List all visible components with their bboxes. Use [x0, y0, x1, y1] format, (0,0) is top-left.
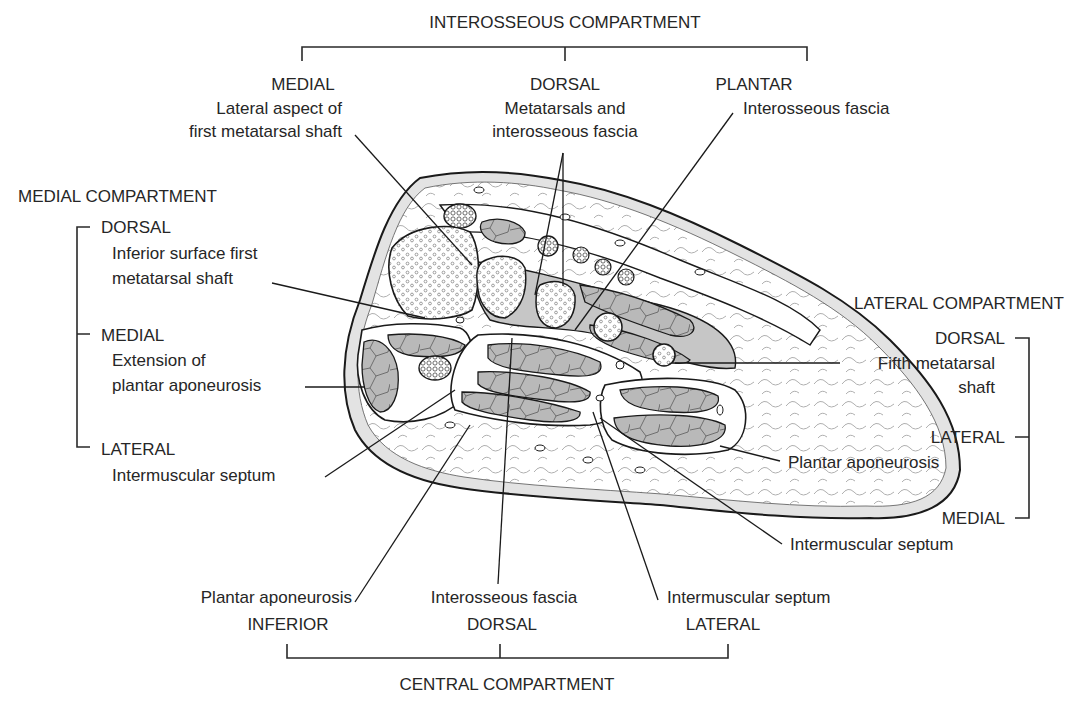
medial-dorsal-title: DORSAL [101, 218, 171, 237]
interosseous-dorsal-desc1: Metatarsals and [505, 99, 626, 118]
first-metatarsal [389, 227, 479, 319]
nerve-bundle [444, 204, 476, 228]
interosseous-plantar-title: PLANTAR [715, 75, 792, 94]
interosseous-dorsal-desc2: interosseous fascia [492, 122, 638, 141]
medial-compartment-bracket [77, 227, 90, 447]
lateral-lateral-desc1: Plantar aponeurosis [788, 453, 939, 472]
medial-medial-desc2: plantar aponeurosis [112, 376, 261, 395]
foot-compartment-diagram: INTEROSSEOUS COMPARTMENT MEDIAL Lateral … [0, 0, 1078, 711]
interosseous-medial-desc1: Lateral aspect of [216, 99, 342, 118]
interosseous-bracket [302, 47, 807, 61]
medial-lateral-desc1: Intermuscular septum [112, 466, 275, 485]
central-dorsal-desc1: Interosseous fascia [431, 588, 578, 607]
central-inferior-title: INFERIOR [247, 615, 328, 634]
tendon [618, 269, 634, 285]
tendon [538, 236, 558, 256]
lateral-compartment-header: LATERAL COMPARTMENT [854, 294, 1064, 313]
nerve-bundle [419, 356, 451, 380]
medial-lateral-title: LATERAL [101, 440, 175, 459]
fourth-metatarsal [594, 313, 622, 341]
lateral-dorsal-desc2: shaft [958, 378, 995, 397]
medial-dorsal-desc1: Inferior surface first [112, 244, 258, 263]
lateral-medial-title: MEDIAL [942, 509, 1005, 528]
interosseous-medial-desc2: first metatarsal shaft [189, 122, 342, 141]
lateral-medial-desc1: Intermuscular septum [790, 535, 953, 554]
interosseous-plantar-desc1: Interosseous fascia [743, 99, 890, 118]
lateral-compartment-bracket [1015, 338, 1029, 518]
central-compartment-header: CENTRAL COMPARTMENT [399, 675, 614, 694]
central-compartment-bracket [287, 644, 728, 658]
interosseous-medial-title: MEDIAL [271, 75, 334, 94]
central-dorsal-title: DORSAL [467, 615, 537, 634]
medial-medial-desc1: Extension of [112, 351, 206, 370]
central-lateral-desc1: Intermuscular septum [667, 588, 830, 607]
lateral-dorsal-desc1: Fifth metatarsal [878, 354, 995, 373]
fifth-metatarsal [653, 344, 675, 366]
tendon [595, 259, 611, 275]
tendon [573, 247, 589, 263]
medial-medial-title: MEDIAL [101, 326, 164, 345]
medial-dorsal-desc2: metatarsal shaft [112, 269, 233, 288]
interosseous-dorsal-title: DORSAL [530, 75, 600, 94]
central-inferior-desc1: Plantar aponeurosis [201, 588, 352, 607]
central-lateral-title: LATERAL [686, 615, 760, 634]
medial-compartment-header: MEDIAL COMPARTMENT [18, 187, 217, 206]
lateral-lateral-title: LATERAL [931, 428, 1005, 447]
interosseous-header: INTEROSSEOUS COMPARTMENT [429, 13, 700, 32]
lateral-dorsal-title: DORSAL [935, 329, 1005, 348]
